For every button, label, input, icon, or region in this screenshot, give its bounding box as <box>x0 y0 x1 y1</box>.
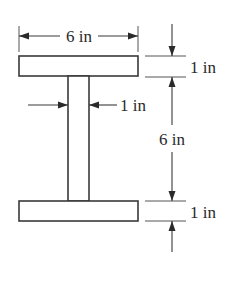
bottom-flange <box>19 201 138 221</box>
arrow-down-icon <box>169 46 176 56</box>
top-flange-thickness-label: 1 in <box>190 58 216 77</box>
arrow-down-icon <box>169 191 176 201</box>
arrow-up-icon <box>169 77 176 87</box>
arrow-left-icon <box>19 33 29 40</box>
web-height-label: 6 in <box>159 130 185 149</box>
i-beam-cross-section <box>19 56 138 221</box>
bottom-flange-thickness-label: 1 in <box>190 203 216 222</box>
bottom-flange-thickness-dimension: 1 in <box>145 201 216 252</box>
flange-width-label: 6 in <box>66 27 92 46</box>
arrow-right-icon <box>128 33 138 40</box>
web <box>68 76 89 201</box>
top-flange-thickness-dimension: 1 in <box>145 24 216 77</box>
flange-width-dimension: 6 in <box>19 26 138 52</box>
arrow-up-icon <box>169 221 176 231</box>
top-flange <box>19 56 138 76</box>
i-beam-diagram: 6 in 1 in 1 in 6 in 1 in <box>0 0 237 283</box>
web-height-dimension: 6 in <box>159 77 185 201</box>
arrow-left-icon <box>89 102 99 109</box>
web-thickness-label: 1 in <box>120 96 146 115</box>
arrow-right-icon <box>58 102 68 109</box>
